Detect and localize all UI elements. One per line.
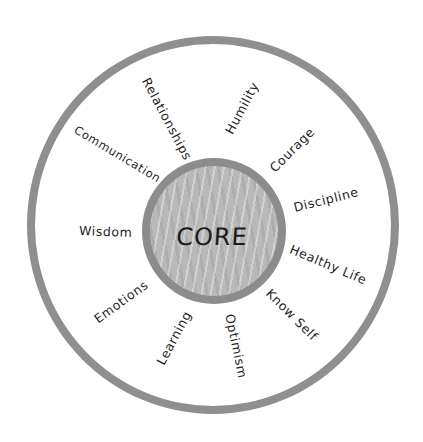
core-values-diagram: CORE Relationships Humility Communicatio… (0, 0, 423, 442)
core-label: CORE (143, 172, 280, 302)
core-circle: CORE (142, 158, 286, 304)
label-wisdom: Wisdom (79, 225, 133, 239)
